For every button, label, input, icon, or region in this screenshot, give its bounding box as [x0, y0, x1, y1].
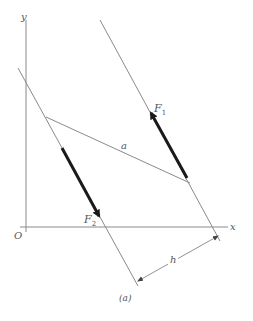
y-axis-label: y: [20, 11, 27, 22]
force-f1-label: F1: [153, 102, 166, 117]
segment-a: [46, 117, 190, 183]
force-f2: F2: [62, 148, 99, 228]
axes: y x O: [14, 11, 236, 241]
force-f2-arrow: [62, 148, 99, 216]
force-f1: F1: [151, 102, 187, 178]
force-couple-diagram: y x O a F1 F2 h: [0, 0, 253, 321]
figure-caption: (a): [119, 293, 132, 303]
segment-a-label: a: [121, 140, 127, 151]
x-axis-label: x: [230, 221, 236, 232]
origin-label: O: [14, 230, 22, 241]
force-f2-label: F2: [83, 213, 96, 228]
force-f1-arrow: [151, 113, 187, 178]
dimension-h: h: [138, 236, 218, 281]
dimension-h-label: h: [170, 254, 176, 265]
